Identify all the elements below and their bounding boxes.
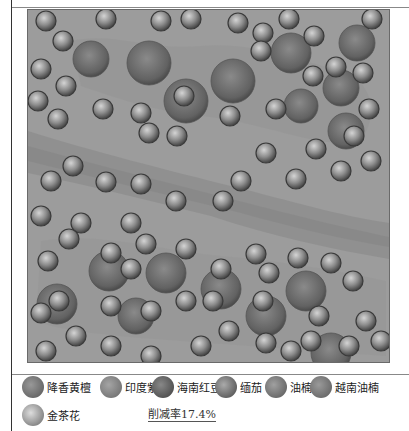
camellia-tree-icon xyxy=(253,291,273,311)
camellia-tree-icon xyxy=(141,301,161,321)
large-tree-icon xyxy=(211,59,255,103)
large-tree-icon xyxy=(286,271,326,311)
planting-plan-map xyxy=(27,9,390,363)
camellia-tree-icon xyxy=(371,331,389,351)
large-tree-icon xyxy=(284,89,318,123)
sindora-tree-icon xyxy=(265,376,287,398)
camellia-tree-icon xyxy=(356,311,376,331)
legend-label: 越南油楠 xyxy=(335,379,379,395)
camellia-tree-icon xyxy=(22,404,44,426)
camellia-tree-icon xyxy=(96,10,116,29)
camellia-tree-icon xyxy=(343,271,363,291)
camellia-tree-icon xyxy=(48,109,68,129)
legend-label: 降香黄檀 xyxy=(47,379,91,395)
camellia-tree-icon xyxy=(228,13,248,33)
reduction-rate: 削减率17.4% xyxy=(148,408,216,422)
camellia-tree-icon xyxy=(256,333,276,353)
camellia-tree-icon xyxy=(93,99,113,119)
camellia-tree-icon xyxy=(36,11,56,31)
camellia-tree-icon xyxy=(339,336,359,356)
legend-item-ormosia: 海南红豆 xyxy=(152,376,221,398)
pterocarpus-tree-icon xyxy=(100,376,122,398)
camellia-tree-icon xyxy=(303,66,323,86)
camellia-tree-icon xyxy=(56,76,76,96)
camellia-tree-icon xyxy=(266,99,286,119)
camellia-tree-icon xyxy=(259,263,279,283)
camellia-tree-icon xyxy=(288,248,308,268)
camellia-tree-icon xyxy=(176,239,196,259)
camellia-tree-icon xyxy=(256,143,276,163)
camellia-tree-icon xyxy=(176,291,196,311)
camellia-tree-icon xyxy=(181,10,201,29)
large-tree-icon xyxy=(127,41,171,85)
camellia-tree-icon xyxy=(353,63,373,83)
legend-item-sindora: 油楠 xyxy=(265,376,312,398)
frame-top-line xyxy=(12,7,409,8)
camellia-tree-icon xyxy=(31,303,51,323)
camellia-tree-icon xyxy=(63,156,83,176)
camellia-tree-icon xyxy=(326,57,346,77)
camellia-tree-icon xyxy=(101,336,121,356)
camellia-tree-icon xyxy=(131,174,151,194)
dalbergia-tree-icon xyxy=(22,376,44,398)
legend-label: 金茶花 xyxy=(47,407,80,423)
camellia-tree-icon xyxy=(331,161,351,181)
camellia-tree-icon xyxy=(344,126,364,146)
camellia-tree-icon xyxy=(101,243,121,263)
camellia-tree-icon xyxy=(304,26,324,46)
camellia-tree-icon xyxy=(220,106,240,126)
large-tree-icon xyxy=(146,253,186,293)
camellia-tree-icon xyxy=(306,139,326,159)
camellia-tree-icon xyxy=(174,86,194,106)
legend-label: 缅茄 xyxy=(240,379,262,395)
camellia-tree-icon xyxy=(151,11,171,31)
large-tree-icon xyxy=(339,25,375,61)
camellia-tree-icon xyxy=(96,172,116,192)
camellia-tree-icon xyxy=(203,291,223,311)
legend-item-dalbergia: 降香黄檀 xyxy=(22,376,91,398)
camellia-tree-icon xyxy=(139,123,159,143)
legend-item-sindora-tonkinensis: 越南油楠 xyxy=(310,376,379,398)
camellia-tree-icon xyxy=(191,336,211,356)
camellia-tree-icon xyxy=(121,259,141,279)
camellia-tree-icon xyxy=(131,103,151,123)
camellia-tree-icon xyxy=(286,169,306,189)
camellia-tree-icon xyxy=(28,91,48,111)
camellia-tree-icon xyxy=(301,331,321,351)
camellia-tree-icon xyxy=(321,253,341,273)
camellia-tree-icon xyxy=(279,10,299,29)
legend: 降香黄檀 印度紫檀 海南红豆 缅茄 油楠 越南油楠 金茶花 削减率17.4% xyxy=(20,374,409,431)
plan-canvas xyxy=(28,10,389,362)
camellia-tree-icon xyxy=(121,213,141,233)
legend-item-afzelia: 缅茄 xyxy=(215,376,262,398)
camellia-tree-icon xyxy=(41,171,61,191)
camellia-tree-icon xyxy=(231,171,251,191)
camellia-tree-icon xyxy=(66,326,86,346)
camellia-tree-icon xyxy=(59,229,79,249)
camellia-tree-icon xyxy=(31,59,51,79)
sindora-tonkinensis-tree-icon xyxy=(310,376,332,398)
camellia-tree-icon xyxy=(219,321,239,341)
camellia-tree-icon xyxy=(53,31,73,51)
camellia-tree-icon xyxy=(281,341,301,361)
camellia-tree-icon xyxy=(136,234,156,254)
camellia-tree-icon xyxy=(213,191,233,211)
large-tree-icon xyxy=(73,41,109,77)
camellia-tree-icon xyxy=(31,206,51,226)
camellia-tree-icon xyxy=(38,251,58,271)
camellia-tree-icon xyxy=(101,296,121,316)
camellia-tree-icon xyxy=(141,346,161,362)
camellia-tree-icon xyxy=(166,191,186,211)
legend-item-camellia: 金茶花 xyxy=(22,404,80,426)
camellia-tree-icon xyxy=(167,126,187,146)
camellia-tree-icon xyxy=(253,23,273,43)
camellia-tree-icon xyxy=(251,41,271,61)
legend-label: 油楠 xyxy=(290,379,312,395)
camellia-tree-icon xyxy=(211,259,231,279)
frame-left-line xyxy=(11,0,12,431)
camellia-tree-icon xyxy=(361,151,381,171)
camellia-tree-icon xyxy=(359,99,379,119)
camellia-tree-icon xyxy=(362,10,382,29)
camellia-tree-icon xyxy=(36,341,56,361)
ormosia-tree-icon xyxy=(152,376,174,398)
